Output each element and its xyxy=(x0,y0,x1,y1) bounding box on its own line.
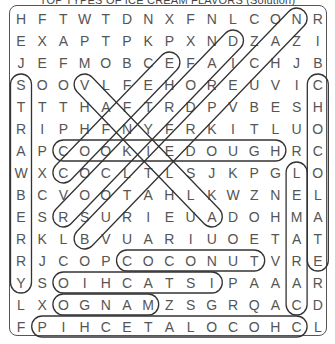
solution-oval-strawberry xyxy=(11,74,32,293)
solution-oval-pistachio xyxy=(53,272,222,293)
solution-oval-butterpecan xyxy=(70,4,312,254)
solution-oval-rockyroad xyxy=(49,26,248,232)
solution-oval-mango xyxy=(53,294,159,315)
solution-ovals xyxy=(0,0,335,344)
solution-oval-chocolatechip xyxy=(32,316,307,337)
solution-oval-vanilla xyxy=(70,70,227,232)
solution-oval-chocolate xyxy=(307,74,328,271)
solution-oval-caramel xyxy=(286,162,307,315)
solution-oval-coffee xyxy=(49,48,185,188)
solution-oval-coconut xyxy=(117,250,265,271)
